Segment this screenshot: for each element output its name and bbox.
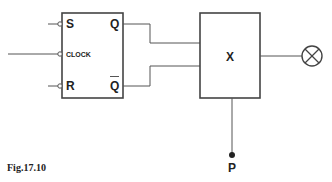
figure-caption: Fig.17.10 — [7, 162, 46, 173]
s-input-label: S — [66, 17, 74, 31]
q-output-wire — [123, 24, 200, 43]
p-terminal-dot — [229, 152, 235, 158]
r-input-label: R — [66, 79, 75, 93]
q-bar-output-label: Q — [110, 79, 119, 93]
circuit-diagram: S CLOCK R Q Q X P Fig.17.10 — [0, 0, 332, 182]
clock-input-bubble — [58, 52, 62, 56]
q-output-label: Q — [110, 17, 119, 31]
s-input-bubble — [58, 22, 62, 26]
lamp-icon — [302, 46, 322, 66]
r-input-bubble — [58, 84, 62, 88]
q-bar-output-wire — [123, 66, 200, 86]
clock-input-label: CLOCK — [66, 51, 91, 58]
x-block-label: X — [226, 50, 234, 64]
p-terminal-label: P — [228, 161, 236, 175]
